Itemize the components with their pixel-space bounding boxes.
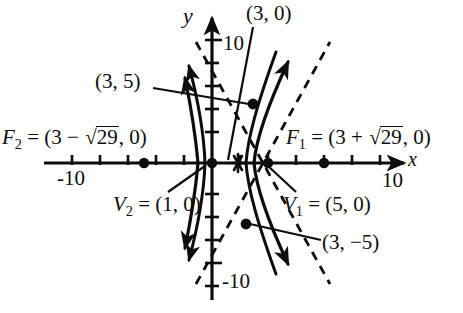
y-axis-label: y <box>183 5 193 27</box>
x-axis <box>44 155 404 165</box>
focus-left-label: F2 = (3 − √29, 0) <box>2 126 147 151</box>
vertex-right-label: V1 = (5, 0) <box>283 194 371 218</box>
point-label-3-0: (3, 0) <box>246 3 292 24</box>
point-origin <box>207 158 217 168</box>
right-branch-overdraw-lower <box>246 163 276 274</box>
leader-vertex-left <box>168 166 205 192</box>
y-tick-label-10: 10 <box>223 33 244 54</box>
point-focus-right <box>319 158 329 168</box>
leader-3-5 <box>153 88 249 104</box>
vertex-left-label: V2 = (1, 0) <box>113 194 201 218</box>
hyperbola-figure: F2 = (3 − √29, 0) F1 = (3 + √29, 0) V2 =… <box>0 0 463 313</box>
point-label-3-5: (3, 5) <box>95 71 141 92</box>
x-tick-label-neg10: -10 <box>57 168 85 189</box>
square-root-icon: √29 <box>368 126 403 148</box>
point-3-5 <box>248 99 259 110</box>
right-branch-upper <box>254 62 288 163</box>
point-3-neg5 <box>241 219 252 230</box>
y-tick-label-neg10: -10 <box>222 271 250 292</box>
x-tick-label-10: 10 <box>382 170 403 191</box>
point-focus-left <box>139 158 149 168</box>
leader-vertex-right <box>268 166 296 192</box>
x-axis-label: x <box>408 149 417 169</box>
center-star-marker <box>231 154 245 172</box>
square-root-icon: √29 <box>84 126 119 148</box>
point-label-3-neg5: (3, −5) <box>322 232 379 253</box>
